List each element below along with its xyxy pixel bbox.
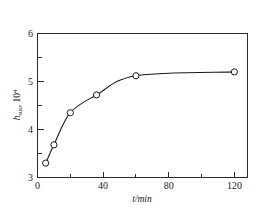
x-axis-title-text: t/min	[132, 194, 152, 204]
y-axis-title: hsus, 104	[11, 89, 23, 120]
y-tick-label: 6	[28, 28, 33, 39]
data-point-marker	[51, 142, 57, 148]
x-tick-label: 40	[98, 180, 108, 191]
chart-figure: 6 5 4 3 0 40 80 120 t/min hsus, 104	[0, 0, 268, 210]
x-axis-title: t/min	[132, 194, 152, 204]
data-point-marker	[93, 92, 99, 98]
data-point-marker	[231, 69, 237, 75]
y-tick-label: 3	[28, 172, 33, 183]
data-point-marker	[67, 110, 73, 116]
x-tick-label: 120	[227, 180, 242, 191]
data-point-marker	[43, 160, 49, 166]
chart-plot-area: 6 5 4 3 0 40 80 120 t/min hsus, 104	[0, 0, 268, 210]
y-axis-title-factor: 10	[12, 93, 22, 103]
y-tick-label: 5	[28, 76, 33, 87]
x-tick-label: 80	[164, 180, 174, 191]
data-point-marker	[133, 73, 139, 79]
svg-text:hsus, 104: hsus, 104	[11, 89, 23, 120]
y-tick-label: 4	[28, 124, 33, 135]
x-tick-label: 0	[35, 180, 40, 191]
